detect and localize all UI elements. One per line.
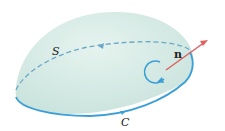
label-n: n: [174, 48, 182, 61]
label-s: S: [52, 45, 60, 58]
surface-s: [16, 12, 193, 114]
stokes-diagram: S n C: [0, 0, 225, 131]
label-c: C: [121, 116, 130, 129]
